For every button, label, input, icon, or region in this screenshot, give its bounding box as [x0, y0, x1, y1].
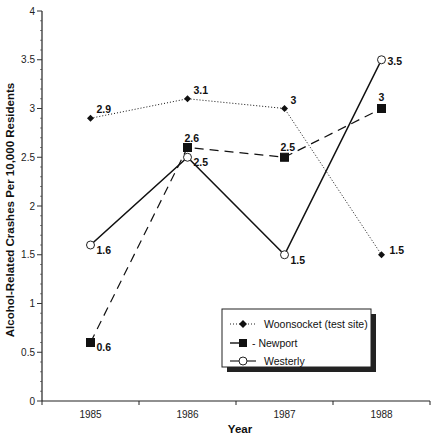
data-label: 0.6 — [97, 341, 112, 353]
square-marker-icon — [378, 105, 386, 113]
data-label: 2.5 — [281, 141, 296, 153]
legend-label: Woonsocket (test site) — [264, 318, 368, 330]
square-marker-icon — [87, 339, 95, 347]
x-tick-label: 1988 — [370, 409, 393, 420]
circle-marker-icon — [184, 153, 192, 161]
y-tick-label: 1 — [29, 298, 35, 309]
data-label: 1.6 — [97, 244, 112, 256]
diamond-marker-icon — [378, 251, 385, 258]
y-tick-label: 1.5 — [21, 249, 35, 260]
legend: Woonsocket (test site) - Newport Westerl… — [222, 309, 376, 372]
circle-marker-icon — [378, 56, 386, 64]
data-label: 1.5 — [390, 244, 405, 256]
x-tick-label: 1987 — [273, 409, 296, 420]
square-marker-icon — [239, 339, 247, 347]
data-label: 2.5 — [194, 156, 209, 168]
y-tick-label: 0.5 — [21, 347, 35, 358]
series-layer — [87, 56, 386, 347]
data-labels: 2.93.131.50.62.62.531.62.51.53.5 — [97, 55, 405, 353]
data-label: 3.5 — [388, 55, 403, 67]
data-label: 2.9 — [97, 103, 112, 115]
square-marker-icon — [281, 153, 289, 161]
diamond-marker-icon — [281, 105, 288, 112]
diamond-marker-icon — [184, 95, 191, 102]
data-label: 2.6 — [185, 132, 200, 144]
y-axis-title: Alcohol-Related Crashes Per 10,000 Resid… — [4, 83, 16, 337]
y-tick-label: 0 — [29, 396, 35, 407]
y-tick-label: 3 — [29, 103, 35, 114]
series-line — [91, 99, 382, 255]
circle-marker-icon — [281, 251, 289, 259]
y-tick-label: 4 — [29, 6, 35, 17]
y-tick-label: 2 — [29, 201, 35, 212]
legend-label: Westerly — [264, 355, 305, 367]
x-axis-title: Year — [228, 423, 253, 435]
data-label: 1.5 — [291, 254, 306, 266]
legend-label: - Newport — [252, 337, 298, 349]
y-tick-label: 2.5 — [21, 152, 35, 163]
x-tick-label: 1985 — [79, 409, 102, 420]
square-marker-icon — [184, 144, 192, 152]
series-line — [91, 60, 382, 255]
data-label: 3 — [379, 91, 385, 103]
line-chart: 00.511.522.533.541985198619871988 2.93.1… — [0, 0, 434, 440]
diamond-marker-icon — [87, 115, 94, 122]
circle-marker-icon — [87, 241, 95, 249]
y-tick-label: 3.5 — [21, 54, 35, 65]
data-label: 3 — [291, 94, 297, 106]
circle-marker-icon — [239, 357, 247, 365]
data-label: 3.1 — [194, 84, 209, 96]
series-line — [91, 109, 382, 343]
x-tick-label: 1986 — [176, 409, 199, 420]
